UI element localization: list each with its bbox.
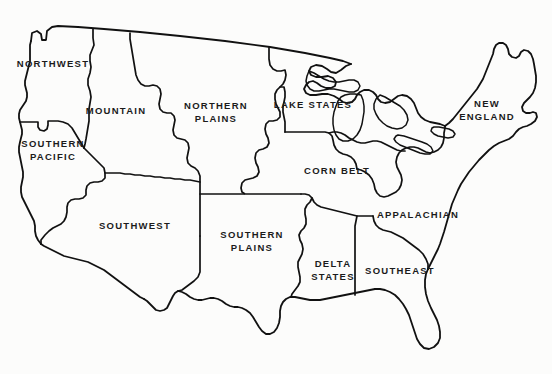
lake-ontario-shore	[431, 127, 455, 138]
border-mountain-southwest	[105, 173, 200, 182]
region-label-appalachian: APPALACHIAN	[377, 208, 459, 221]
region-label-southern-pacific: SOUTHERN PACIFIC	[21, 137, 84, 163]
northeast-border	[428, 43, 537, 269]
region-label-lake-states: LAKE STATES	[274, 98, 352, 111]
region-label-southern-plains: SOUTHERN PLAINS	[220, 228, 283, 254]
gulf-coast	[144, 289, 375, 334]
region-label-corn-belt: CORN BELT	[304, 164, 370, 177]
region-label-northwest: NORTHWEST	[17, 57, 89, 70]
border-delta-southeast	[355, 216, 357, 295]
atlantic-coast-florida	[375, 269, 440, 349]
border-northernplains-east	[241, 47, 301, 194]
border-northwest-mountain	[84, 29, 94, 148]
border-appalachian-southeast	[373, 216, 428, 269]
border-mountain-plains	[130, 33, 200, 236]
region-label-new-england: NEW ENGLAND	[459, 97, 515, 123]
region-label-delta-states: DELTA STATES	[311, 257, 355, 283]
region-label-southwest: SOUTHWEST	[99, 219, 171, 232]
us-farm-production-regions-map: NORTHWEST MOUNTAIN NORTHERN PLAINS LAKE …	[0, 0, 552, 374]
border-michigan-ohio	[329, 132, 405, 151]
great-lakes-north-border	[304, 64, 445, 126]
region-label-southeast: SOUTHEAST	[365, 264, 435, 277]
region-label-mountain: MOUNTAIN	[86, 104, 146, 117]
border-delta-southernplains	[291, 198, 312, 297]
border-southwest-southernplains	[178, 236, 200, 291]
mexican-border	[41, 244, 144, 299]
region-label-northern-plains: NORTHERN PLAINS	[184, 99, 248, 125]
